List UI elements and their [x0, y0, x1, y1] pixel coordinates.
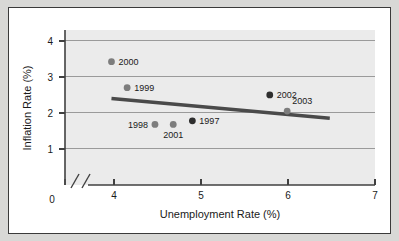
data-point-label: 1999	[134, 83, 154, 93]
data-point-marker	[152, 121, 159, 128]
data-point-marker	[189, 117, 196, 124]
data-point-marker	[266, 91, 273, 98]
y-axis-tick-label: 1	[47, 144, 53, 155]
data-point-marker	[284, 108, 291, 115]
x-axis-title: Unemployment Rate (%)	[160, 208, 280, 220]
data-point-label: 2000	[118, 57, 138, 67]
data-point-label: 1998	[128, 120, 148, 130]
x-axis-origin-label: 0	[49, 194, 55, 205]
chart-screenshot: 1234 4567 0 1997199819992000200120022003…	[0, 0, 399, 241]
data-point-marker	[108, 58, 115, 65]
x-axis-tick-label: 4	[111, 190, 117, 201]
y-axis-tick-label: 3	[47, 72, 53, 83]
x-axis-tick-label: 5	[198, 190, 204, 201]
data-point-label: 1997	[199, 116, 219, 126]
data-point-marker	[170, 121, 177, 128]
y-axis-tick-label: 2	[47, 108, 53, 119]
y-axis-tick-label: 4	[47, 36, 53, 47]
data-point-label: 2001	[163, 130, 183, 140]
data-point-marker	[124, 84, 131, 91]
x-axis-tick-label: 7	[372, 190, 378, 201]
data-point-label: 2003	[292, 96, 312, 106]
y-axis-title: Inflation Rate (%)	[21, 66, 33, 151]
scatter-chart: 1234 4567 0 1997199819992000200120022003…	[9, 8, 390, 233]
figure-frame: 1234 4567 0 1997199819992000200120022003…	[8, 7, 391, 234]
y-axis-ticks: 1234	[47, 36, 65, 155]
x-axis-tick-label: 6	[285, 190, 291, 201]
